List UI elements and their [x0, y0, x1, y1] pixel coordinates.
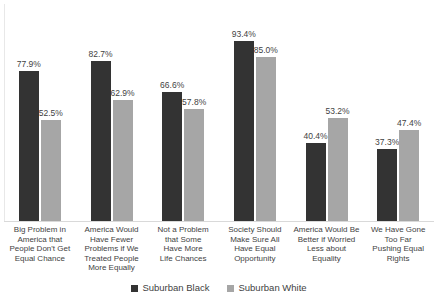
bar: 82.7%	[91, 61, 111, 221]
bar-value-label: 47.4%	[386, 118, 432, 128]
bar-rect	[19, 71, 39, 221]
bar-group: 66.6%57.8%	[162, 0, 204, 221]
bar-rect	[328, 118, 348, 221]
category-label-line: Treated People	[76, 254, 148, 264]
category-label-line: Have Fewer	[76, 235, 148, 245]
bar: 40.4%	[306, 143, 326, 221]
category-label-line: Have More	[147, 244, 219, 254]
bar-value-label: 93.4%	[221, 29, 267, 39]
bar-rect	[377, 149, 397, 221]
chart-legend: Suburban BlackSuburban White	[0, 283, 438, 293]
bar-group: 82.7%62.9%	[91, 0, 133, 221]
bar-rect	[306, 143, 326, 221]
category-label-line: Opportunity	[219, 254, 291, 264]
bar-groups: 77.9%52.5%82.7%62.9%66.6%57.8%93.4%85.0%…	[4, 0, 434, 221]
category-label: America WouldHave FewerProblems if WeTre…	[76, 225, 148, 273]
bar: 93.4%	[234, 41, 254, 221]
category-label-line: Make Sure All	[219, 235, 291, 245]
bar-value-label: 66.6%	[149, 80, 195, 90]
bar: 77.9%	[19, 71, 39, 221]
category-label-line: More Equally	[76, 263, 148, 273]
bar-rect	[162, 92, 182, 221]
bar-rect	[113, 100, 133, 221]
bar-group: 77.9%52.5%	[19, 0, 61, 221]
category-label-line: Life Chances	[147, 254, 219, 264]
bar-rect	[184, 109, 204, 221]
bar-value-label: 85.0%	[243, 45, 289, 55]
category-label-line: Big Problem in	[4, 225, 76, 235]
category-label: We Have GoneToo FarPushing EqualRights	[362, 225, 434, 263]
bar-chart: 77.9%52.5%82.7%62.9%66.6%57.8%93.4%85.0%…	[0, 0, 438, 305]
bar: 53.2%	[328, 118, 348, 221]
category-label-line: Less about	[291, 244, 363, 254]
category-label-line: Too Far	[362, 235, 434, 245]
bar-rect	[41, 120, 61, 221]
category-label-line: Pushing Equal	[362, 244, 434, 254]
bar-value-label: 62.9%	[100, 88, 146, 98]
category-label-line: Problems if We	[76, 244, 148, 254]
legend-item[interactable]: Suburban White	[227, 283, 306, 293]
category-label: America Would BeBetter if WorriedLess ab…	[291, 225, 363, 263]
bar-rect	[399, 130, 419, 221]
legend-swatch-icon	[227, 285, 234, 292]
category-label-line: America that	[4, 235, 76, 245]
category-label-line: Equal Chance	[4, 254, 76, 264]
category-label-line: America Would	[76, 225, 148, 235]
category-label-line: Not a Problem	[147, 225, 219, 235]
bar: 66.6%	[162, 92, 182, 221]
bar: 62.9%	[113, 100, 133, 221]
bar-value-label: 52.5%	[28, 108, 74, 118]
category-label: Big Problem inAmerica thatPeople Don't G…	[4, 225, 76, 263]
bar-group: 93.4%85.0%	[234, 0, 276, 221]
category-label: Not a Problemthat SomeHave MoreLife Chan…	[147, 225, 219, 263]
bar-rect	[256, 57, 276, 221]
category-label-line: Better if Worried	[291, 235, 363, 245]
bar: 57.8%	[184, 109, 204, 221]
legend-item[interactable]: Suburban Black	[131, 283, 209, 293]
legend-label: Suburban Black	[142, 283, 209, 293]
bar: 37.3%	[377, 149, 397, 221]
bar-group: 37.3%47.4%	[377, 0, 419, 221]
category-label-line: Have Equal	[219, 244, 291, 254]
bar-value-label: 82.7%	[78, 49, 124, 59]
category-label-line: that Some	[147, 235, 219, 245]
bar-value-label: 57.8%	[171, 97, 217, 107]
bar-rect	[234, 41, 254, 221]
bar: 85.0%	[256, 57, 276, 221]
category-label-line: People Don't Get	[4, 244, 76, 254]
category-label: Society ShouldMake Sure AllHave EqualOpp…	[219, 225, 291, 263]
legend-label: Suburban White	[238, 283, 306, 293]
category-axis-labels: Big Problem inAmerica thatPeople Don't G…	[4, 225, 434, 277]
category-label-line: Equality	[291, 254, 363, 264]
bar: 52.5%	[41, 120, 61, 221]
bar-rect	[91, 61, 111, 221]
bar-group: 40.4%53.2%	[306, 0, 348, 221]
bar: 47.4%	[399, 130, 419, 221]
legend-swatch-icon	[131, 285, 138, 292]
category-label-line: Rights	[362, 254, 434, 264]
bar-value-label: 77.9%	[6, 59, 52, 69]
category-label-line: America Would Be	[291, 225, 363, 235]
x-axis-line	[4, 221, 434, 222]
category-label-line: We Have Gone	[362, 225, 434, 235]
category-label-line: Society Should	[219, 225, 291, 235]
bar-value-label: 53.2%	[315, 106, 361, 116]
